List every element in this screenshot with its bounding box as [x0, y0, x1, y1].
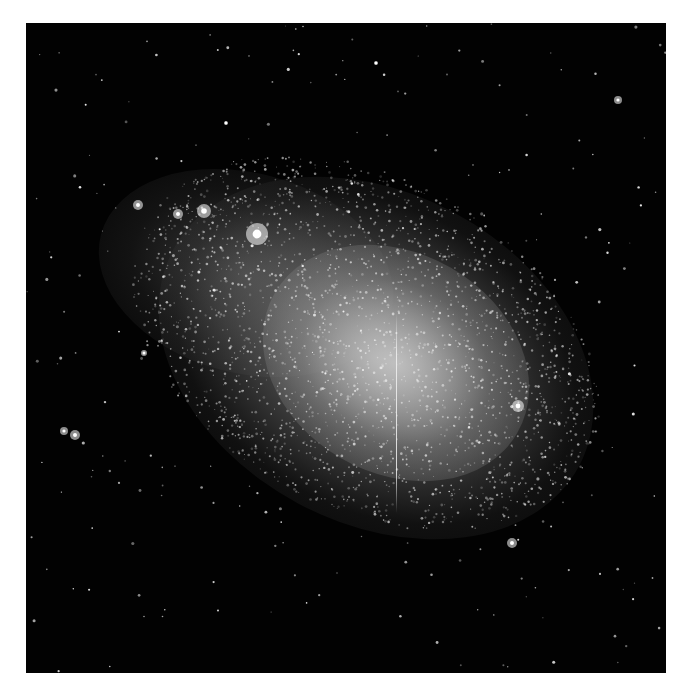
- galaxy-star: [289, 422, 291, 424]
- galaxy-star: [230, 237, 233, 240]
- galaxy-star: [491, 389, 493, 391]
- galaxy-star: [309, 498, 312, 501]
- galaxy-star: [260, 468, 261, 469]
- galaxy-star: [493, 486, 495, 488]
- galaxy-star: [161, 342, 162, 343]
- galaxy-star: [307, 380, 309, 382]
- field-star: [306, 602, 308, 604]
- galaxy-star: [396, 438, 398, 440]
- galaxy-star: [365, 505, 368, 508]
- galaxy-star: [556, 467, 558, 469]
- galaxy-star: [314, 164, 316, 166]
- galaxy-star: [181, 296, 182, 297]
- galaxy-star: [227, 199, 230, 202]
- galaxy-star: [441, 513, 443, 515]
- galaxy-star: [369, 473, 370, 474]
- field-star: [161, 495, 163, 497]
- field-star: [287, 68, 290, 71]
- galaxy-star: [263, 323, 266, 326]
- galaxy-star: [403, 248, 404, 249]
- galaxy-star: [314, 432, 316, 434]
- galaxy-star: [416, 326, 417, 327]
- galaxy-star: [225, 226, 227, 228]
- galaxy-star: [387, 472, 388, 473]
- galaxy-star: [226, 215, 227, 216]
- galaxy-star: [373, 434, 374, 435]
- galaxy-star: [357, 437, 360, 440]
- field-star: [480, 212, 483, 215]
- galaxy-star: [493, 399, 494, 400]
- galaxy-star: [528, 384, 530, 386]
- galaxy-star: [227, 329, 228, 330]
- galaxy-star: [157, 345, 159, 347]
- galaxy-star: [571, 334, 574, 337]
- galaxy-star: [543, 501, 545, 503]
- galaxy-star: [474, 267, 475, 268]
- galaxy-star: [322, 461, 324, 463]
- galaxy-star: [302, 277, 304, 279]
- galaxy-star: [279, 427, 281, 429]
- galaxy-star: [339, 248, 342, 251]
- galaxy-star: [310, 381, 311, 382]
- galaxy-star: [360, 170, 362, 172]
- galaxy-star: [373, 254, 374, 255]
- field-star: [591, 494, 593, 496]
- galaxy-star: [481, 248, 484, 251]
- field-star: [599, 573, 601, 575]
- galaxy-star: [545, 407, 547, 409]
- field-star: [561, 69, 563, 71]
- galaxy-star: [407, 266, 409, 268]
- galaxy-star: [287, 177, 289, 179]
- galaxy-star: [507, 428, 508, 429]
- galaxy-star: [368, 329, 369, 330]
- galaxy-star: [383, 380, 385, 382]
- galaxy-star: [357, 383, 358, 384]
- galaxy-star: [593, 399, 594, 400]
- field-star: [155, 54, 158, 57]
- galaxy-star: [518, 334, 520, 336]
- galaxy-star: [420, 223, 422, 225]
- galaxy-star: [476, 296, 477, 297]
- field-star: [101, 79, 103, 81]
- field-star: [568, 441, 569, 442]
- galaxy-star: [315, 167, 317, 169]
- galaxy-star: [360, 329, 362, 331]
- galaxy-star: [347, 395, 350, 398]
- galaxy-star: [284, 443, 286, 445]
- galaxy-star: [510, 383, 512, 385]
- galaxy-star: [572, 354, 574, 356]
- galaxy-star: [214, 409, 215, 410]
- galaxy-star: [191, 348, 194, 351]
- galaxy-star: [295, 170, 298, 173]
- field-star: [271, 611, 272, 612]
- galaxy-star: [286, 165, 288, 167]
- galaxy-star: [284, 258, 286, 260]
- galaxy-star: [447, 464, 449, 466]
- galaxy-star: [278, 402, 281, 405]
- galaxy-star: [383, 415, 386, 418]
- galaxy-star: [330, 409, 332, 411]
- galaxy-star: [361, 507, 363, 509]
- field-star: [448, 344, 450, 346]
- galaxy-star: [474, 259, 477, 262]
- galaxy-star: [326, 166, 327, 167]
- field-star: [554, 279, 556, 281]
- galaxy-star: [469, 497, 472, 500]
- galaxy-star: [154, 229, 155, 230]
- bright-star: [253, 230, 262, 239]
- galaxy-star: [221, 268, 222, 269]
- galaxy-star: [333, 342, 335, 344]
- galaxy-star: [275, 279, 278, 282]
- galaxy-star: [420, 405, 421, 406]
- galaxy-star: [506, 369, 508, 371]
- galaxy-star: [495, 381, 497, 383]
- galaxy-star: [499, 479, 500, 480]
- galaxy-star: [413, 424, 416, 427]
- galaxy-star: [332, 467, 334, 469]
- galaxy-star: [384, 171, 386, 173]
- galaxy-star: [353, 421, 356, 424]
- galaxy-star: [312, 248, 315, 251]
- galaxy-star: [549, 446, 552, 449]
- galaxy-star: [186, 226, 188, 228]
- galaxy-star: [288, 339, 289, 340]
